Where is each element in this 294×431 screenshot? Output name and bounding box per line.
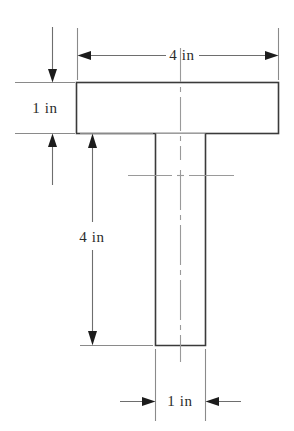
- arrow-up-web-height: [88, 134, 97, 149]
- arrow-left-web-width: [206, 397, 220, 406]
- web-width-label: 1 in: [167, 393, 192, 409]
- part-geometry: [77, 83, 279, 346]
- figure-canvas: 4 in 1 in 4 in 1 in: [0, 0, 294, 431]
- flange-thickness-dimension: 1 in: [32, 27, 57, 185]
- flange-width-dimension: 4 in: [78, 47, 279, 63]
- web-height-label: 4 in: [79, 229, 104, 245]
- web-width-dimension: 1 in: [120, 393, 241, 409]
- flange-width-label: 4 in: [169, 47, 194, 63]
- arrow-right-web-width: [142, 397, 156, 406]
- flange-thickness-label: 1 in: [32, 100, 57, 116]
- arrow-right-flange-width: [265, 51, 279, 60]
- arrow-down-flange-thickness: [48, 69, 57, 83]
- flange-rectangle: [77, 83, 279, 134]
- arrow-down-web-height: [88, 331, 97, 346]
- arrow-up-flange-thickness: [48, 134, 57, 148]
- arrow-left-flange-width: [78, 51, 92, 60]
- web-height-dimension: 4 in: [79, 134, 104, 346]
- tee-section-drawing: 4 in 1 in 4 in 1 in: [0, 0, 294, 431]
